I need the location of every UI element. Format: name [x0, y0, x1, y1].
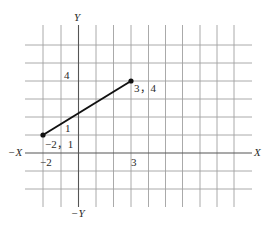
grid-horizontal-lines [25, 45, 252, 189]
line-segment [43, 81, 131, 135]
negative-x-axis-label: −X [8, 147, 22, 158]
point-b-label: 3，4 [134, 83, 156, 94]
tick-label-x-neg2: −2 [40, 157, 52, 168]
point-a-label: −2，1 [45, 139, 73, 150]
x-axis-label: X [254, 147, 261, 158]
tick-label-y-4: 4 [64, 70, 70, 81]
point-b-marker [128, 78, 133, 83]
tick-label-y-1: 1 [65, 123, 71, 134]
coordinate-grid [0, 0, 272, 228]
point-a-marker [40, 132, 45, 137]
coordinate-diagram: Y −Y X −X 4 1 −2 3 −2，1 3，4 [0, 0, 272, 228]
negative-y-axis-label: −Y [71, 208, 85, 219]
y-axis-label: Y [74, 12, 80, 23]
grid-vertical-lines [43, 25, 234, 207]
tick-label-x-3: 3 [131, 157, 137, 168]
